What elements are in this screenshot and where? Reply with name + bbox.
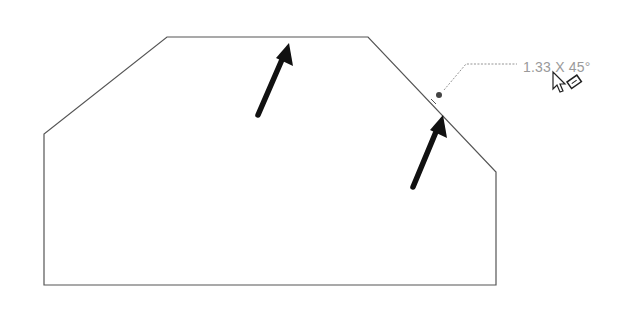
top-edge-arrow-icon	[258, 43, 293, 115]
pointer-with-chamfer-tool-icon	[553, 72, 581, 92]
chamfer-dimension-label: 1.33 X 45°	[523, 59, 591, 75]
chamfer-edge-arrow-icon	[413, 115, 447, 187]
chamfer-point-marker[interactable]	[436, 92, 442, 98]
sketch-canvas[interactable]	[0, 0, 630, 309]
sketch-outline[interactable]	[44, 37, 496, 285]
leader-line	[444, 64, 517, 90]
chamfer-preview	[431, 64, 517, 104]
